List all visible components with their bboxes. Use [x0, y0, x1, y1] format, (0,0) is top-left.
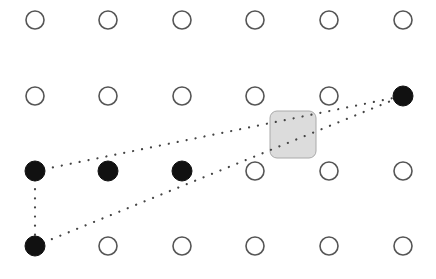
grid-dot[interactable]: [26, 87, 44, 105]
pattern-grid[interactable]: [0, 0, 436, 279]
grid-dot[interactable]: [173, 87, 191, 105]
grid-dot[interactable]: [99, 87, 117, 105]
grid-dot[interactable]: [26, 11, 44, 29]
dotted-path-line: [35, 96, 403, 171]
grid-dot-selected[interactable]: [98, 161, 118, 181]
grid-dot[interactable]: [99, 11, 117, 29]
grid-dot[interactable]: [99, 237, 117, 255]
pattern-canvas[interactable]: [0, 0, 436, 279]
grid-dot[interactable]: [394, 162, 412, 180]
grid-dot[interactable]: [394, 11, 412, 29]
grid-dot[interactable]: [394, 237, 412, 255]
grid-dot[interactable]: [320, 162, 338, 180]
grid-dot[interactable]: [320, 237, 338, 255]
grid-dot[interactable]: [173, 11, 191, 29]
grid-dot-selected[interactable]: [25, 161, 45, 181]
grid-dot-selected[interactable]: [25, 236, 45, 256]
grid-dot[interactable]: [320, 87, 338, 105]
grid-dot[interactable]: [246, 237, 264, 255]
grid-dot[interactable]: [320, 11, 338, 29]
grid-dot[interactable]: [246, 162, 264, 180]
grid-dot[interactable]: [246, 11, 264, 29]
grid-dot[interactable]: [173, 237, 191, 255]
grid-dot-selected[interactable]: [393, 86, 413, 106]
grid-dot[interactable]: [246, 87, 264, 105]
grid-dot-selected[interactable]: [172, 161, 192, 181]
dotted-path-line: [35, 96, 403, 246]
